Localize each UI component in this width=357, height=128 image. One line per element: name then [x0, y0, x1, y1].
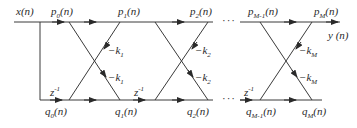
arrow-icon	[188, 70, 193, 77]
coef-label-k1-lower: −k1	[108, 72, 124, 86]
lattice-filter-diagram: x(n) p0(n) p1(n) p2(n) pM-1(n) pM(n) y (…	[0, 0, 357, 128]
delay-label-2: z-1	[134, 86, 144, 98]
node-label-p2: p2(n)	[190, 6, 212, 20]
node-label-qM: qM(n)	[302, 106, 326, 120]
node-label-p0: p0(n)	[51, 6, 73, 20]
delay-label-1: z-1	[50, 86, 60, 98]
input-label: x(n)	[16, 6, 34, 17]
node-label-q1: q1(n)	[115, 106, 137, 120]
node-label-p1: p1(n)	[118, 6, 140, 20]
output-label: y (n)	[328, 30, 348, 41]
coef-label-k2-lower: −k2	[195, 72, 211, 86]
arrow-icon	[292, 70, 297, 77]
coef-label-kM-upper: −kM	[299, 45, 317, 59]
node-label-pM-1: pM-1(n)	[248, 6, 278, 20]
coef-label-kM-lower: −kM	[299, 72, 317, 86]
ellipsis-top: ···	[222, 14, 236, 26]
arrow-icon	[101, 70, 106, 77]
coef-label-k1-upper: −k1	[108, 45, 124, 59]
node-label-q0: q0(n)	[45, 106, 67, 120]
node-label-pM: pM(n)	[314, 6, 338, 20]
ellipsis-bottom: ···	[222, 92, 236, 104]
delay-label-M: z-1	[244, 86, 254, 98]
node-label-q2: q2(n)	[187, 106, 209, 120]
node-label-qM-1: qM-1(n)	[246, 106, 276, 120]
coef-label-k2-upper: −k2	[195, 45, 211, 59]
